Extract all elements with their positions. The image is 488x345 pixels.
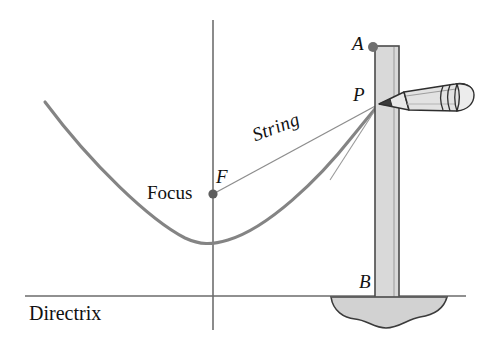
- point-dot-f: [208, 189, 217, 198]
- point-p-label: P: [353, 85, 365, 104]
- point-f-label: F: [216, 167, 228, 186]
- focus-label: Focus: [147, 183, 192, 202]
- stand-base: [331, 297, 447, 328]
- figure-canvas: Directrix Focus F P A B String: [0, 0, 488, 345]
- straightedge-strip: [375, 46, 399, 298]
- parabola-diagram: [0, 0, 488, 345]
- point-b-label: B: [359, 272, 371, 291]
- directrix-label: Directrix: [29, 303, 101, 323]
- point-dot-a: [368, 42, 378, 52]
- string-line-p-to-b: [330, 104, 379, 180]
- point-a-label: A: [352, 34, 364, 53]
